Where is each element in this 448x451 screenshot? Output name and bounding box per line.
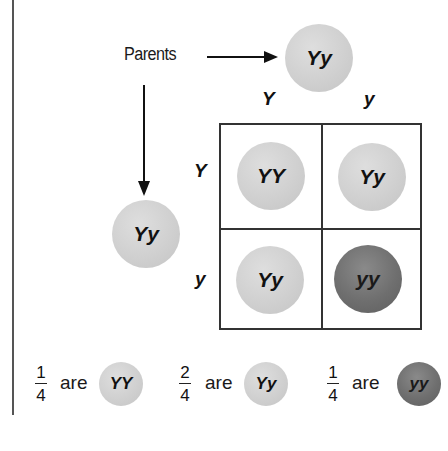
arrow-down-icon (138, 85, 150, 196)
cell-genotype: Yy (257, 268, 283, 292)
fraction-bar (327, 383, 339, 384)
cell-genotype: yy (356, 267, 379, 291)
summary-genotype: YY (110, 374, 133, 394)
fraction-denominator: 4 (328, 387, 337, 404)
fraction-numerator: 2 (180, 364, 189, 381)
column-allele-2: y (364, 88, 375, 110)
summary-genotype: yy (410, 374, 429, 394)
cell-circle-YY: YY (237, 142, 305, 210)
fraction-denominator: 4 (36, 387, 45, 404)
parent-left-genotype: Yy (133, 222, 159, 246)
fraction-denominator: 4 (180, 387, 189, 404)
grid-horizontal-divider (220, 228, 420, 230)
summary-genotype: Yy (256, 374, 277, 394)
row-allele-1: Y (194, 160, 207, 182)
parent-top-circle: Yy (285, 24, 353, 92)
fraction-numerator: 1 (328, 364, 337, 381)
cell-circle-yy: yy (334, 245, 402, 313)
fraction-bar (179, 383, 191, 384)
summary-circle-YY: YY (99, 362, 143, 406)
arrow-right-icon (207, 51, 278, 63)
fraction-1: 1 4 (34, 364, 48, 404)
grid-vertical-divider (321, 124, 323, 328)
summary-circle-yy: yy (397, 362, 441, 406)
fraction-bar (35, 383, 47, 384)
fraction-2: 2 4 (178, 364, 192, 404)
fraction-3: 1 4 (326, 364, 340, 404)
cell-circle-Yy-bottom: Yy (236, 246, 304, 314)
column-allele-1: Y (262, 88, 275, 110)
cell-genotype: YY (257, 164, 285, 188)
summary-word-2: are (205, 372, 232, 394)
row-allele-2: y (195, 268, 206, 290)
parent-left-circle: Yy (112, 200, 180, 268)
summary-word-3: are (352, 372, 379, 394)
fraction-numerator: 1 (36, 364, 45, 381)
cell-genotype: Yy (359, 165, 385, 189)
cell-circle-Yy-top: Yy (338, 143, 406, 211)
summary-word-1: are (60, 372, 87, 394)
summary-circle-Yy: Yy (244, 362, 288, 406)
parent-top-genotype: Yy (306, 46, 332, 70)
